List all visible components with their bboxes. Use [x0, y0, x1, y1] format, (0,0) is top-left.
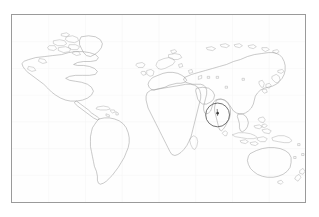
landmass-north-america [22, 52, 98, 101]
landmass-southeast-asia [237, 114, 248, 132]
landmass-arctic-russia-islands [207, 44, 280, 54]
landmass-scandinavia [156, 54, 182, 70]
world-map-svg [12, 15, 305, 202]
landmass-south-america [90, 118, 129, 184]
figure-canvas: Bay of Bengal / southern India [0, 0, 319, 217]
landmass-british-isles [136, 62, 154, 76]
map-pin-dot-icon[interactable] [216, 112, 219, 115]
landmass-tasmania [278, 180, 283, 184]
landmass-caribbean [96, 106, 118, 117]
landmass-sri-lanka [223, 131, 228, 136]
landmass-arabian-peninsula [196, 87, 215, 104]
graticule-layer [12, 15, 305, 202]
landmass-canadian-arctic [48, 33, 81, 56]
landmass-new-zealand [295, 168, 305, 181]
coastlines-layer [22, 33, 305, 184]
landmass-pacific-islands [171, 50, 304, 159]
landmass-philippines [258, 117, 267, 128]
landmass-japan [262, 69, 284, 93]
landmass-west-canada-islands [28, 59, 47, 72]
landmass-madagascar [190, 136, 198, 150]
landmass-indonesia [232, 125, 271, 146]
landmass-new-guinea [272, 136, 292, 143]
world-map-frame [11, 14, 306, 203]
landmass-central-america [75, 101, 100, 120]
landmass-korean-peninsula [259, 80, 264, 87]
landmass-greenland [80, 36, 103, 57]
